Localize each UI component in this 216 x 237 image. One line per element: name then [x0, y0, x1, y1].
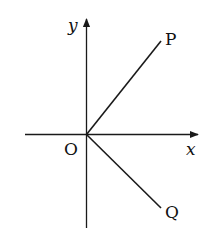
coordinate-diagram: y P O x Q [0, 0, 216, 237]
origin-label: O [64, 139, 78, 159]
point-p-label: P [165, 29, 176, 49]
point-q-label: Q [165, 202, 179, 222]
ray-oq [87, 135, 162, 209]
ray-op [87, 41, 162, 135]
y-axis-label: y [67, 15, 78, 35]
x-axis-label: x [186, 139, 196, 159]
